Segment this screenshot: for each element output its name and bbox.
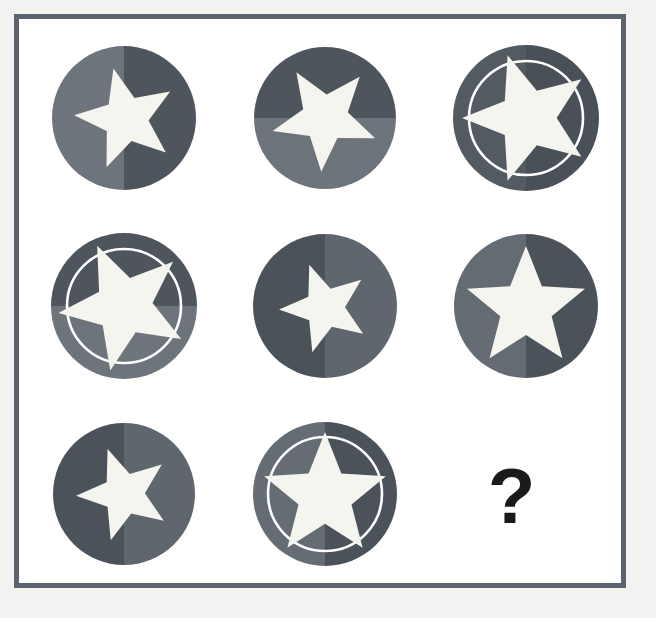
matrix-panel: ? [14,14,626,588]
cell-5[interactable] [225,212,426,400]
matrix-grid: ? [24,24,626,588]
cell-1[interactable] [24,24,225,212]
star-token-8 [251,420,399,568]
star-token-7 [51,421,197,567]
cell-3[interactable] [425,24,626,212]
cell-2[interactable] [225,24,426,212]
question-mark-placeholder: ? [488,457,536,535]
star-token-2 [252,45,398,191]
star-token-5 [251,232,399,380]
cell-4[interactable] [24,212,225,400]
star-token-1 [50,44,198,192]
star-token-3 [451,43,601,193]
star-token-6 [452,232,600,380]
cell-8[interactable] [225,400,426,588]
cell-7[interactable] [24,400,225,588]
cell-6[interactable] [425,212,626,400]
cell-9[interactable]: ? [425,400,626,588]
puzzle-root: ? [0,0,656,618]
star-token-4 [49,231,199,381]
